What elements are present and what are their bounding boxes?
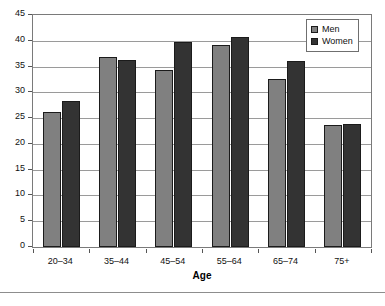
bar-group <box>89 15 145 247</box>
bar-women <box>174 42 192 247</box>
bar-men <box>155 70 173 247</box>
y-tick-label: 40 <box>15 35 25 44</box>
bar-women <box>287 61 305 247</box>
x-tick-label: 55–64 <box>201 256 257 266</box>
legend-label-men: Men <box>322 25 340 34</box>
bar-men <box>212 45 230 247</box>
legend-swatch-men-icon <box>311 26 318 33</box>
bar-group <box>33 15 89 247</box>
x-axis-title: Age <box>32 270 372 281</box>
bar-women <box>118 60 136 247</box>
x-axis: 20–3435–4445–5455–6465–7475+ <box>32 249 372 269</box>
x-tick-mark <box>371 249 372 253</box>
bar-men <box>99 57 117 247</box>
x-tick-mark <box>146 249 147 253</box>
x-tick-label: 65–74 <box>257 256 313 266</box>
legend-item-women: Women <box>311 36 353 47</box>
x-tick-mark <box>89 249 90 253</box>
x-tick-mark <box>258 249 259 253</box>
y-tick-label: 30 <box>15 86 25 95</box>
x-tick-mark <box>33 249 34 253</box>
x-tick-mark <box>202 249 203 253</box>
bar-group <box>146 15 202 247</box>
x-tick-label: 35–44 <box>88 256 144 266</box>
bar-group <box>202 15 258 247</box>
bar-women <box>231 37 249 247</box>
y-tick-label: 10 <box>15 189 25 198</box>
chart-legend: Men Women <box>306 19 359 52</box>
y-tick-label: 20 <box>15 138 25 147</box>
bar-women <box>343 124 361 247</box>
bar-chart-figure: 454035302520151050 20–3435–4445–5455–646… <box>0 0 385 306</box>
y-tick-label: 15 <box>15 164 25 173</box>
bar-men <box>324 125 342 247</box>
y-axis: 454035302520151050 <box>0 0 32 248</box>
y-tick-label: 35 <box>15 61 25 70</box>
x-tick-label: 75+ <box>314 256 370 266</box>
y-tick-label: 5 <box>20 215 25 224</box>
y-tick-label: 25 <box>15 112 25 121</box>
x-tick-label: 45–54 <box>145 256 201 266</box>
legend-swatch-women-icon <box>311 38 318 45</box>
y-tick-label: 0 <box>20 241 25 250</box>
bar-men <box>268 79 286 247</box>
y-tick-label: 45 <box>15 9 25 18</box>
legend-label-women: Women <box>322 37 353 46</box>
bar-women <box>62 101 80 247</box>
x-tick-label: 20–34 <box>32 256 88 266</box>
x-tick-mark <box>315 249 316 253</box>
legend-item-men: Men <box>311 24 353 35</box>
bar-men <box>43 112 61 247</box>
footer-divider <box>0 292 385 293</box>
